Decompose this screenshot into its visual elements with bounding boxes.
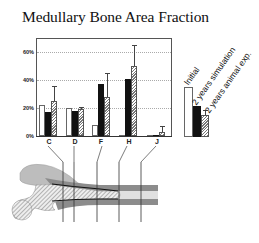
cortex-lower xyxy=(55,199,158,210)
medullary-canal xyxy=(118,191,158,199)
femur-diagram xyxy=(0,0,259,243)
section-leader-lines xyxy=(48,146,156,162)
femoral-head xyxy=(12,200,32,220)
